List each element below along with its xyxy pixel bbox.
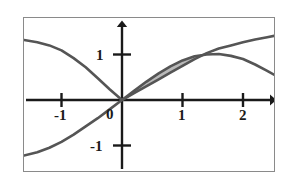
x-axis-arrowhead — [270, 95, 277, 106]
plot-canvas — [0, 0, 287, 183]
origin-label: 0 — [106, 107, 114, 122]
chart-figure: -1 1 2 1 -1 0 — [0, 0, 287, 183]
curve-arctan-like-curve — [24, 36, 274, 100]
y-tick-label-1: 1 — [96, 48, 104, 63]
x-tick-label-minus-1: -1 — [54, 108, 67, 123]
y-tick-label-minus-1: -1 — [90, 139, 103, 154]
y-axis-arrowhead — [117, 21, 127, 28]
x-tick-label-1: 1 — [178, 108, 186, 123]
x-tick-label-2: 2 — [239, 108, 247, 123]
